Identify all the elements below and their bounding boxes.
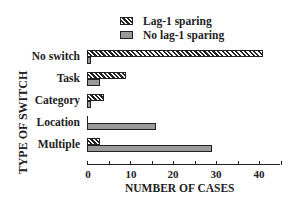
x-axis: [87, 164, 280, 165]
x-tick: [152, 161, 153, 165]
x-tick: [259, 161, 260, 165]
bar-lag1-sparing: [87, 94, 104, 101]
legend-item-no-lag1-sparing: No lag-1 sparing: [120, 28, 224, 42]
category-label: Category: [35, 94, 80, 106]
bar-lag1-sparing: [87, 50, 263, 57]
x-tick: [109, 161, 110, 165]
x-tick: [195, 161, 196, 165]
legend-item-lag1-sparing: Lag-1 sparing: [120, 14, 224, 28]
x-tick: [173, 161, 174, 165]
x-tick: [216, 161, 217, 165]
x-tick-label: 20: [168, 168, 179, 180]
bar-no-lag1-sparing: [87, 57, 91, 64]
category-label: Multiple: [38, 138, 80, 150]
bar-no-lag1-sparing: [87, 101, 91, 108]
x-tick: [130, 161, 131, 165]
grey-swatch-icon: [120, 31, 133, 39]
category-label: No switch: [32, 50, 80, 62]
x-tick: [238, 161, 239, 165]
bar-lag1-sparing: [87, 72, 126, 79]
category-label: Task: [57, 72, 80, 84]
x-tick-label: 40: [254, 168, 265, 180]
x-tick: [87, 161, 88, 165]
legend-label: No lag-1 sparing: [143, 29, 224, 41]
bar-lag1-sparing: [87, 138, 100, 145]
x-tick-label: 0: [85, 168, 91, 180]
legend: Lag-1 sparing No lag-1 sparing: [120, 14, 224, 42]
hatched-swatch-icon: [120, 17, 133, 25]
x-tick-label: 30: [211, 168, 222, 180]
x-tick-label: 10: [126, 168, 137, 180]
x-tick: [281, 161, 282, 165]
bar-no-lag1-sparing: [87, 79, 100, 86]
bar-no-lag1-sparing: [87, 145, 212, 152]
legend-label: Lag-1 sparing: [143, 15, 212, 27]
category-label: Location: [37, 116, 80, 128]
x-axis-label: NUMBER OF CASES: [125, 182, 234, 194]
bar-lag1-sparing: [87, 116, 89, 123]
y-axis-label: TYPE OF SWITCH: [16, 68, 31, 178]
bar-no-lag1-sparing: [87, 123, 156, 130]
